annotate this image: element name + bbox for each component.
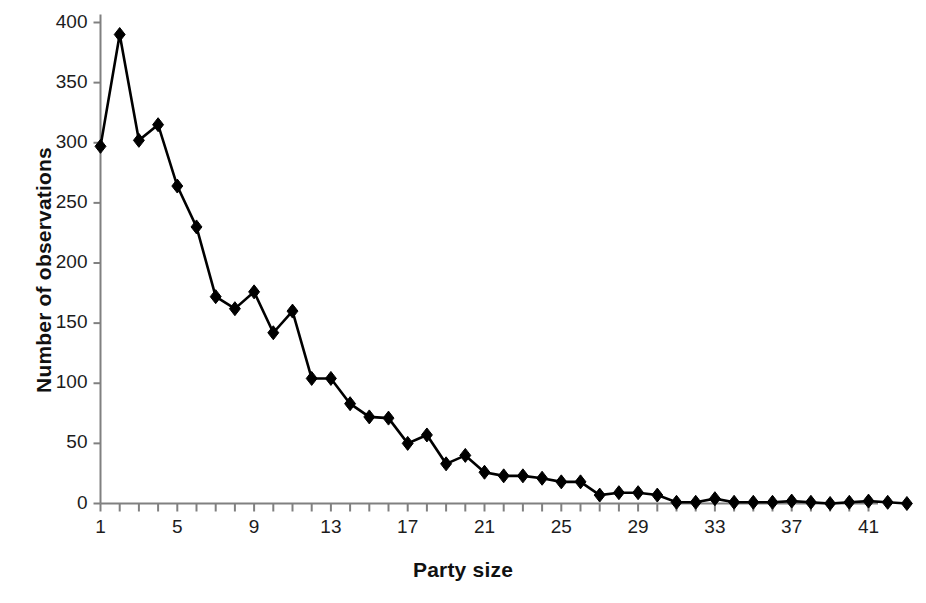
data-point-marker [652, 488, 663, 502]
chart-axes [94, 15, 879, 512]
data-point-marker [767, 495, 778, 509]
y-axis-tick-label: 0 [28, 492, 88, 514]
data-point-marker [786, 494, 797, 508]
data-point-marker [825, 497, 836, 511]
x-axis-tick-label: 1 [71, 516, 131, 538]
y-axis-tick-label: 100 [28, 371, 88, 393]
data-point-marker [210, 290, 221, 304]
data-point-marker [805, 495, 816, 509]
y-axis-tick-label: 150 [28, 311, 88, 333]
y-axis-tick-label: 250 [28, 191, 88, 213]
x-axis-tick-label: 37 [762, 516, 822, 538]
x-axis-tick-label: 25 [531, 516, 591, 538]
data-point-marker [153, 118, 164, 132]
y-axis-tick-label: 50 [28, 431, 88, 453]
data-point-marker [517, 469, 528, 483]
x-axis-tick-label: 9 [224, 516, 284, 538]
data-point-marker [633, 486, 644, 500]
data-point-markers [95, 28, 912, 511]
y-axis-tick-label: 200 [28, 251, 88, 273]
data-point-marker [556, 475, 567, 489]
data-point-marker [306, 371, 317, 385]
data-point-marker [748, 495, 759, 509]
x-axis-title: Party size [0, 558, 926, 582]
x-axis-tick-label: 41 [839, 516, 899, 538]
chart-container: Number of observations Party size 050100… [0, 0, 926, 603]
data-point-marker [364, 410, 375, 424]
x-axis-tick-label: 5 [147, 516, 207, 538]
y-axis-tick-label: 350 [28, 71, 88, 93]
data-point-marker [594, 488, 605, 502]
x-axis-tick-label: 33 [685, 516, 745, 538]
x-axis-tick-label: 13 [301, 516, 361, 538]
data-point-marker [690, 495, 701, 509]
x-axis-tick-label: 21 [455, 516, 515, 538]
data-point-marker [863, 494, 874, 508]
data-point-marker [901, 497, 912, 511]
data-point-marker [95, 139, 106, 153]
data-point-marker [537, 471, 548, 485]
data-point-marker [498, 469, 509, 483]
x-axis-tick-label: 29 [608, 516, 668, 538]
data-point-marker [172, 179, 183, 193]
data-point-marker [844, 495, 855, 509]
y-axis-tick-label: 400 [28, 11, 88, 33]
data-point-marker [882, 495, 893, 509]
data-point-marker [613, 486, 624, 500]
data-point-marker [133, 133, 144, 147]
data-series-line [101, 35, 907, 504]
data-point-marker [729, 495, 740, 509]
y-axis-tick-label: 300 [28, 131, 88, 153]
x-axis-tick-label: 17 [378, 516, 438, 538]
data-point-marker [671, 495, 682, 509]
line-chart-plot [0, 0, 926, 603]
data-point-marker [191, 220, 202, 234]
data-point-marker [575, 475, 586, 489]
data-point-marker [114, 28, 125, 42]
